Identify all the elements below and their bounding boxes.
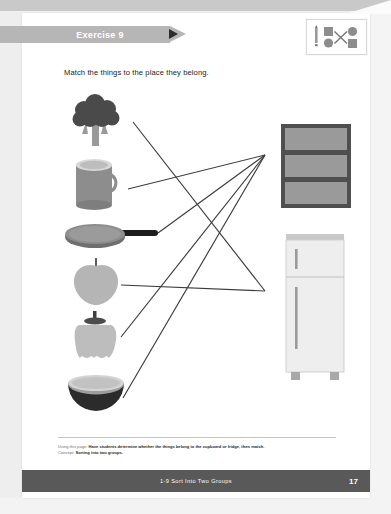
page-left-gutter: [0, 0, 22, 514]
teacher-note: Using this page: Have students determine…: [58, 444, 348, 456]
usage-body: Have students determine whether the thin…: [89, 444, 265, 449]
exercise-banner: Exercise 9: [0, 26, 186, 43]
teacher-note-concept: Concept: Sorting into two groups.: [58, 450, 348, 456]
concept-body: Sorting into two groups.: [76, 450, 123, 455]
pencil-icon: [315, 25, 318, 46]
usage-lead: Using this page:: [58, 444, 87, 449]
circle-shape: [348, 27, 357, 36]
square-shape: [324, 27, 333, 36]
match-pairs-icon: [307, 20, 366, 54]
lesson-title: 1-9 Sort Into Two Groups: [22, 478, 370, 484]
page-corner-fold: [345, 0, 391, 14]
footer-divider: [58, 437, 336, 438]
activity-type-icon-card: [306, 19, 367, 55]
scanner-top-bar: [0, 0, 391, 11]
concept-lead: Concept:: [58, 450, 74, 455]
page-bottom-gutter: [0, 498, 391, 514]
instruction-text: Match the things to the place they belon…: [64, 68, 209, 77]
worksheet-page: [22, 13, 370, 498]
page-right-gutter: [370, 0, 391, 514]
exercise-label: Exercise 9: [76, 30, 124, 40]
circle-shape: [324, 38, 333, 47]
scanned-page-background: Exercise 9 Match the things to the place…: [0, 0, 391, 514]
page-number: 17: [349, 477, 358, 486]
banner-arrow-icon: [169, 29, 178, 39]
page-footer-bar: 1-9 Sort Into Two Groups 17: [22, 470, 370, 492]
square-shape: [348, 39, 357, 48]
